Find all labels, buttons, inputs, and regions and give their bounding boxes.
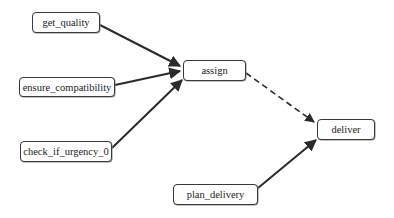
node-plan-delivery[interactable]: plan_delivery [173,184,258,205]
node-label: deliver [331,124,360,135]
node-ensure-compatibility[interactable]: ensure_compatibility [19,77,115,97]
node-label: plan_delivery [187,189,245,200]
node-label: check_if_urgency_0 [23,146,109,157]
edge-get-quality-to-assign [100,25,180,66]
edge-assign-to-deliver [246,73,314,122]
node-deliver[interactable]: deliver [317,119,375,140]
edge-check-if-urgency-to-assign [112,80,182,148]
node-label: ensure_compatibility [23,82,112,93]
node-check-if-urgency-0[interactable]: check_if_urgency_0 [20,141,112,162]
node-get-quality[interactable]: get_quality [32,12,100,33]
node-label: get_quality [42,17,89,28]
node-assign[interactable]: assign [183,60,246,81]
edge-plan-delivery-to-deliver [258,140,316,188]
node-label: assign [201,65,227,76]
edge-ensure-compatibility-to-assign [115,71,180,85]
flow-diagram: get_quality ensure_compatibility check_i… [0,0,394,218]
